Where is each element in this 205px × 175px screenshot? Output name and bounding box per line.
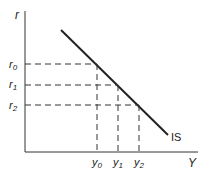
y0-label: y0: [91, 156, 103, 170]
is-curve-diagram: r Y IS r0 r1 r2 y0 y1 y2: [0, 0, 205, 175]
x-axis-label: Y: [188, 156, 197, 170]
y-axis-label: r: [15, 8, 20, 22]
r2-label: r2: [9, 99, 18, 113]
is-curve: [61, 30, 168, 135]
y2-label: y2: [133, 156, 145, 170]
r0-label: r0: [9, 58, 18, 72]
r1-label: r1: [9, 78, 17, 92]
y1-label: y1: [112, 156, 123, 170]
is-curve-label: IS: [171, 131, 181, 143]
